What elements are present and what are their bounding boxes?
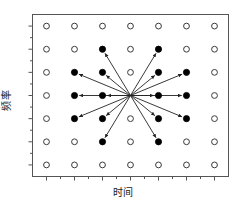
- time-frequency-spreading-figure: 时间 频率: [0, 0, 246, 209]
- spreading-arrow-layer: [79, 53, 182, 137]
- x-axis-label: 时间: [0, 188, 246, 198]
- plot-canvas: [0, 0, 246, 209]
- y-axis-label: 频率: [2, 80, 12, 120]
